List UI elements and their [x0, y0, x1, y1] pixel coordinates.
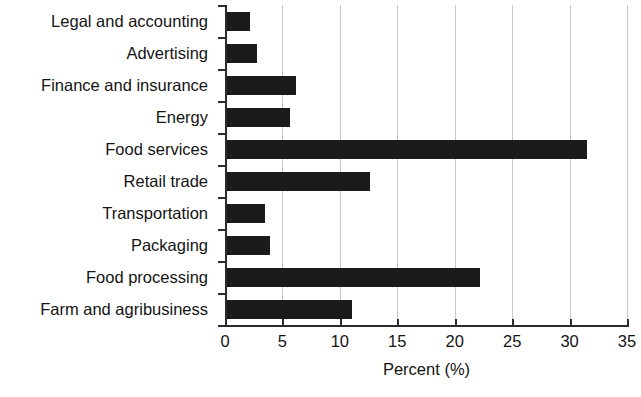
bar	[227, 108, 290, 127]
x-axis-tick	[627, 319, 629, 327]
category-label: Packaging	[131, 229, 208, 261]
gridline	[570, 5, 571, 325]
x-axis-tick-label: 35	[607, 332, 641, 351]
x-axis-tick	[397, 319, 399, 327]
x-axis-title: Percent (%)	[225, 360, 628, 379]
horizontal-bar-chart: Legal and accountingAdvertisingFinance a…	[0, 0, 641, 397]
x-axis-line	[225, 325, 628, 327]
bar	[227, 12, 250, 31]
category-label: Food services	[105, 133, 208, 165]
x-axis-tick	[282, 319, 284, 327]
bar	[227, 300, 352, 319]
x-axis-tick-label: 25	[492, 332, 532, 351]
bar	[227, 140, 587, 159]
y-axis-tick	[218, 165, 225, 167]
bar	[227, 172, 370, 191]
plot-area	[225, 5, 627, 325]
bar	[227, 76, 296, 95]
category-label: Transportation	[102, 197, 208, 229]
category-label: Energy	[156, 101, 208, 133]
x-axis-tick-label: 10	[320, 332, 360, 351]
gridline	[512, 5, 513, 325]
category-label: Finance and insurance	[41, 69, 208, 101]
y-axis-tick	[218, 293, 225, 295]
x-axis-tick-label: 20	[435, 332, 475, 351]
x-axis-tick-label: 0	[205, 332, 245, 351]
x-axis-tick-label: 5	[262, 332, 302, 351]
bar	[227, 204, 265, 223]
x-axis-tick-label: 30	[550, 332, 590, 351]
y-axis-tick	[218, 37, 225, 39]
category-label: Farm and agribusiness	[40, 293, 208, 325]
category-label: Retail trade	[124, 165, 208, 197]
x-axis-tick	[455, 319, 457, 327]
x-axis-tick-label: 15	[377, 332, 417, 351]
category-axis: Legal and accountingAdvertisingFinance a…	[0, 5, 214, 325]
bar	[227, 268, 480, 287]
category-label: Food processing	[86, 261, 208, 293]
x-axis-tick	[225, 319, 227, 327]
y-axis-tick	[218, 101, 225, 103]
y-axis-tick	[218, 5, 225, 7]
x-axis-tick	[570, 319, 572, 327]
y-axis-tick	[218, 261, 225, 263]
y-axis-tick	[218, 133, 225, 135]
bar	[227, 44, 257, 63]
bar	[227, 236, 270, 255]
category-label: Legal and accounting	[51, 5, 208, 37]
x-axis-tick	[340, 319, 342, 327]
y-axis-tick	[218, 69, 225, 71]
y-axis-tick	[218, 229, 225, 231]
gridline	[627, 5, 628, 325]
x-axis-tick	[512, 319, 514, 327]
category-label: Advertising	[126, 37, 208, 69]
y-axis-tick	[218, 197, 225, 199]
y-axis-tick	[218, 325, 225, 327]
